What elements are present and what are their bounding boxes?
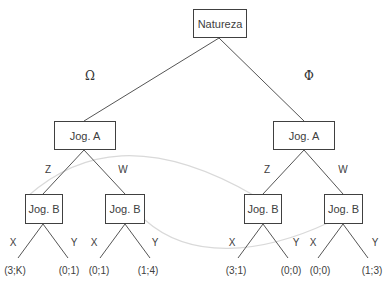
information-set-curve-w — [145, 220, 330, 248]
nature-node-label: Natureza — [198, 18, 243, 30]
payoff-4: (1;4) — [138, 265, 159, 276]
move-label-x: X — [91, 237, 98, 248]
payoff-3: (0;1) — [89, 265, 110, 276]
payoff-5: (3;1) — [226, 265, 247, 276]
move-label-z: Z — [45, 164, 51, 175]
move-label-w: W — [118, 164, 127, 175]
payoff-7: (0;0) — [310, 265, 331, 276]
payoff-2: (0;1) — [59, 265, 80, 276]
payoff-8: (1;3) — [362, 265, 383, 276]
player-b-label: Jog. B — [28, 203, 59, 215]
player-b-label: Jog. B — [247, 203, 278, 215]
player-a-label: Jog. A — [289, 130, 320, 142]
move-label-w: W — [338, 164, 347, 175]
information-set-curve-z — [28, 156, 255, 196]
nature-move-phi: Φ — [304, 69, 314, 83]
payoff-6: (0;0) — [281, 265, 302, 276]
player-a-label: Jog. A — [70, 130, 101, 142]
move-label-z: Z — [264, 164, 270, 175]
player-b-node-1: Jog. B — [25, 194, 63, 224]
player-b-node-2: Jog. B — [105, 194, 145, 224]
move-label-y: Y — [372, 237, 379, 248]
player-b-node-4: Jog. B — [324, 194, 363, 224]
player-b-label: Jog. B — [109, 203, 140, 215]
payoff-1: (3;K) — [4, 265, 26, 276]
nature-move-omega: Ω — [85, 69, 95, 83]
player-b-label: Jog. B — [328, 203, 359, 215]
nature-node: Natureza — [193, 9, 247, 38]
player-a-node-right: Jog. A — [273, 121, 335, 150]
move-label-x: X — [310, 237, 317, 248]
player-a-node-left: Jog. A — [54, 121, 116, 150]
move-label-x: X — [10, 237, 17, 248]
move-label-y: Y — [152, 237, 159, 248]
move-label-x: X — [229, 237, 236, 248]
move-label-y: Y — [293, 237, 300, 248]
move-label-y: Y — [71, 237, 78, 248]
player-b-node-3: Jog. B — [244, 194, 282, 224]
